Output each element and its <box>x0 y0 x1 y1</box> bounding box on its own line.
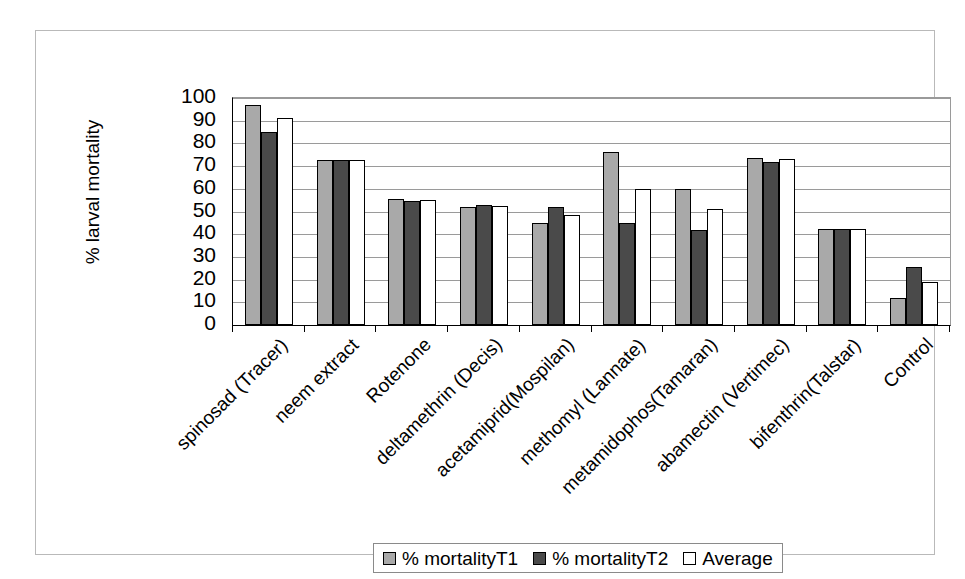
bar <box>818 229 834 325</box>
bar <box>420 200 436 325</box>
x-axis-tick-mark <box>949 325 950 332</box>
y-axis-tick-labels: 0102030405060708090100 <box>156 85 224 335</box>
y-axis-tick-label: 80 <box>193 130 216 151</box>
bar <box>906 267 922 325</box>
bar <box>675 189 691 325</box>
legend-label: % mortalityT1 <box>402 549 518 568</box>
y-axis-tick-label: 20 <box>193 267 216 288</box>
bar <box>922 282 938 325</box>
x-axis-label: abamectin (Vertimec) <box>651 334 793 476</box>
bar <box>492 206 508 325</box>
y-axis-tick-label: 70 <box>193 153 216 174</box>
bar <box>564 215 580 325</box>
bar <box>277 118 293 325</box>
legend-swatch-icon <box>383 552 396 565</box>
bar <box>779 159 795 325</box>
y-axis-tick-label: 0 <box>204 312 216 333</box>
bar-group <box>245 98 293 325</box>
bar <box>261 132 277 325</box>
bar <box>388 199 404 325</box>
y-axis-tick-label: 100 <box>181 85 216 106</box>
y-axis-title: % larval mortality <box>82 92 104 292</box>
x-axis-tick-mark <box>877 325 878 332</box>
y-axis-tick-label: 30 <box>193 244 216 265</box>
x-axis-tick-mark <box>734 325 735 332</box>
bar <box>691 230 707 325</box>
bar-group <box>818 98 866 325</box>
bar <box>763 162 779 325</box>
y-axis-tick-label: 60 <box>193 176 216 197</box>
x-axis-label: spinosad (Tracer) <box>172 334 292 454</box>
legend-entry: % mortalityT1 <box>383 549 518 568</box>
bar <box>349 160 365 325</box>
bar <box>707 209 723 325</box>
bar <box>532 223 548 325</box>
plot-area <box>232 97 951 326</box>
x-axis-label: acetamiprid(Mospilan) <box>431 334 579 482</box>
bar <box>245 105 261 325</box>
x-axis-label: deltamethrin (Decis) <box>371 334 507 470</box>
chart-figure: % larval mortality 010203040506070809010… <box>0 0 965 579</box>
bar <box>747 158 763 325</box>
chart-legend: % mortalityT1% mortalityT2Average <box>373 543 783 573</box>
bar-group <box>747 98 795 325</box>
bar <box>460 207 476 325</box>
legend-label: % mortalityT2 <box>552 549 668 568</box>
x-axis-label: Control <box>879 334 938 393</box>
x-axis-tick-mark <box>662 325 663 332</box>
bar <box>317 160 333 325</box>
x-axis-tick-mark <box>447 325 448 332</box>
x-axis-label: methomyl (Lannate) <box>515 334 650 469</box>
bar <box>850 229 866 325</box>
x-axis-tick-mark <box>304 325 305 332</box>
bar-group <box>388 98 436 325</box>
x-axis-tick-mark <box>375 325 376 332</box>
legend-swatch-icon <box>533 552 546 565</box>
bar-group <box>675 98 723 325</box>
x-axis-label: Rotenone <box>362 334 436 408</box>
bar-group <box>532 98 580 325</box>
bar <box>404 201 420 325</box>
legend-entry: % mortalityT2 <box>533 549 668 568</box>
bar <box>548 207 564 325</box>
legend-label: Average <box>702 549 772 568</box>
y-axis-tick-label: 40 <box>193 221 216 242</box>
bar-group <box>460 98 508 325</box>
bar <box>834 229 850 325</box>
y-axis-tick-label: 90 <box>193 108 216 129</box>
bar <box>333 160 349 325</box>
x-axis-tick-mark <box>519 325 520 332</box>
bar <box>476 205 492 325</box>
figure-frame: % larval mortality 010203040506070809010… <box>35 30 935 555</box>
bar-group <box>317 98 365 325</box>
y-axis-tick-label: 50 <box>193 199 216 220</box>
x-axis-tick-mark <box>806 325 807 332</box>
x-axis-tick-mark <box>591 325 592 332</box>
bar <box>619 223 635 325</box>
bar <box>603 152 619 325</box>
legend-entry: Average <box>683 549 772 568</box>
y-axis-tick-label: 10 <box>193 289 216 310</box>
legend-swatch-icon <box>683 552 696 565</box>
bar <box>635 189 651 325</box>
bar-group <box>890 98 938 325</box>
bar-group <box>603 98 651 325</box>
bar <box>890 298 906 325</box>
x-axis-tick-mark <box>232 325 233 332</box>
